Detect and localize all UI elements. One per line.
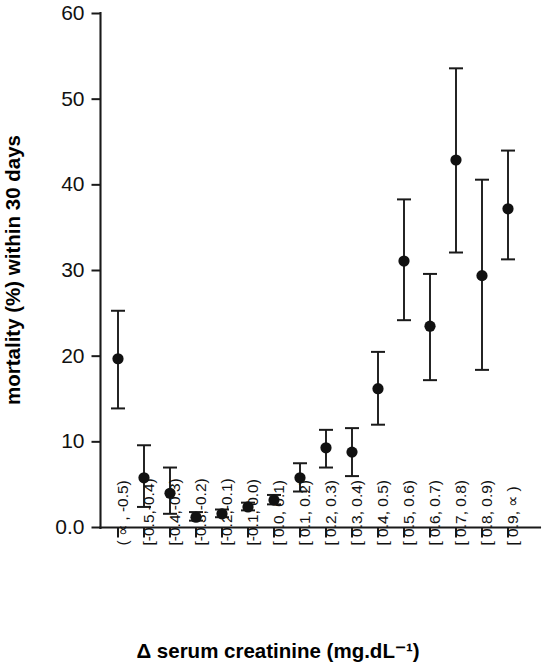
x-tick-label: [ 0.0, 0.1) bbox=[270, 480, 287, 545]
x-tick-label: [-0.4,-0.3) bbox=[166, 478, 183, 545]
data-point-group bbox=[319, 430, 333, 468]
data-point-marker bbox=[372, 383, 383, 394]
data-point-group bbox=[501, 151, 515, 260]
data-point-marker bbox=[346, 447, 357, 458]
x-tick-label: ( ∝ , -0.5) bbox=[114, 480, 131, 545]
x-tick-label: [ 0.8, 0.9) bbox=[478, 480, 495, 545]
chart-svg: 0.0102030405060 ( ∝ , -0.5)[-0.5,-0.4)[-… bbox=[0, 0, 558, 665]
x-tick-label: [ 0.6, 0.7) bbox=[426, 480, 443, 545]
y-tick-label: 50 bbox=[61, 87, 84, 110]
x-tick-label: [-0.2,-0.1) bbox=[218, 478, 235, 545]
x-axis-title: Δ serum creatinine (mg.dL⁻¹) bbox=[136, 639, 419, 662]
data-point-marker bbox=[398, 255, 409, 266]
y-tick-label: 20 bbox=[61, 344, 84, 367]
data-point-marker bbox=[450, 154, 461, 165]
x-tick-label: [ 0.3, 0.4) bbox=[348, 480, 365, 545]
x-tick-label: [ 0.2, 0.3) bbox=[322, 480, 339, 545]
y-axis-ticks: 0.0102030405060 bbox=[55, 1, 100, 538]
mortality-creatinine-scatter-chart: 0.0102030405060 ( ∝ , -0.5)[-0.5,-0.4)[-… bbox=[0, 0, 558, 665]
y-tick-label: 10 bbox=[61, 429, 84, 452]
data-point-group bbox=[449, 68, 463, 252]
y-tick-label: 40 bbox=[61, 172, 84, 195]
x-tick-label: [ 0.5, 0.6) bbox=[400, 480, 417, 545]
x-tick-label: [ 0.4, 0.5) bbox=[374, 480, 391, 545]
x-tick-label: [-0.1, 0.0) bbox=[244, 479, 261, 545]
x-axis-tick-labels: ( ∝ , -0.5)[-0.5,-0.4)[-0.4,-0.3)[-0.3,-… bbox=[114, 478, 521, 545]
data-point-marker bbox=[112, 353, 123, 364]
y-axis-title: mortality (%) within 30 days bbox=[1, 135, 24, 405]
x-tick-label: [ 0.7, 0.8) bbox=[452, 480, 469, 545]
y-tick-label: 30 bbox=[61, 258, 84, 281]
data-point-group bbox=[423, 274, 437, 380]
x-tick-label: [-0.3,-0.2) bbox=[192, 478, 209, 545]
data-point-group bbox=[371, 352, 385, 425]
y-tick-label: 60 bbox=[61, 1, 84, 24]
x-tick-label: [ 0.1, 0.2) bbox=[296, 480, 313, 545]
data-point-group bbox=[111, 311, 125, 409]
data-point-marker bbox=[424, 321, 435, 332]
data-series-mortality bbox=[111, 68, 515, 522]
y-tick-label: 0.0 bbox=[55, 515, 84, 538]
data-point-group bbox=[345, 428, 359, 476]
x-tick-label: [ 0.9, ∝ ) bbox=[504, 486, 521, 545]
data-point-marker bbox=[502, 203, 513, 214]
data-point-group bbox=[475, 180, 489, 370]
x-tick-label: [-0.5,-0.4) bbox=[140, 478, 157, 545]
data-point-marker bbox=[476, 270, 487, 281]
data-point-marker bbox=[320, 442, 331, 453]
data-point-group bbox=[397, 199, 411, 320]
